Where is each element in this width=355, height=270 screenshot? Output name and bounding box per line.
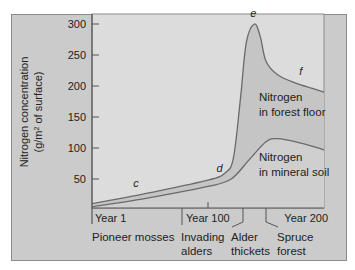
y-tick-label: 100 [68, 142, 86, 154]
y-tick-label: 50 [74, 173, 86, 185]
stage-label: Spruce [277, 231, 313, 243]
stage-label-line2: thickets [231, 245, 270, 257]
region-label-mineral-soil: Nitrogen [259, 151, 302, 163]
x-tick-label: Year 100 [186, 212, 230, 224]
y-tick-label: 250 [68, 49, 86, 61]
curve-point-label-e: e [250, 7, 256, 19]
y-axis-label-line1: Nitrogen concentration [18, 57, 30, 168]
region-label-mineral-soil-line2: in mineral soil [259, 166, 329, 178]
stage-bracket [232, 208, 243, 227]
stage-label-line2: alders [181, 245, 213, 257]
y-tick-label: 300 [68, 18, 86, 30]
stage-label: Alder [231, 231, 258, 243]
y-tick-label: 200 [68, 80, 86, 92]
x-tick-label: Year 1 [95, 212, 126, 224]
stage-bracket [266, 208, 278, 227]
region-label-forest-floor-line2: in forest floor [259, 106, 326, 118]
nitrogen-chart: 50100150200250300 Year 1Year 100Year 200… [0, 0, 355, 270]
curve-point-label-d: d [217, 162, 224, 174]
y-axis-label-line2: (g/m2 of surface) [32, 72, 44, 153]
stage-label: Invading [181, 231, 224, 243]
stage-label-line2: forest [277, 245, 307, 257]
region-label-forest-floor: Nitrogen [259, 91, 302, 103]
x-tick-label: Year 200 [284, 212, 328, 224]
stage-label: Pioneer mosses [92, 231, 175, 243]
y-tick-label: 150 [68, 111, 86, 123]
curve-point-label-c: c [133, 177, 139, 189]
